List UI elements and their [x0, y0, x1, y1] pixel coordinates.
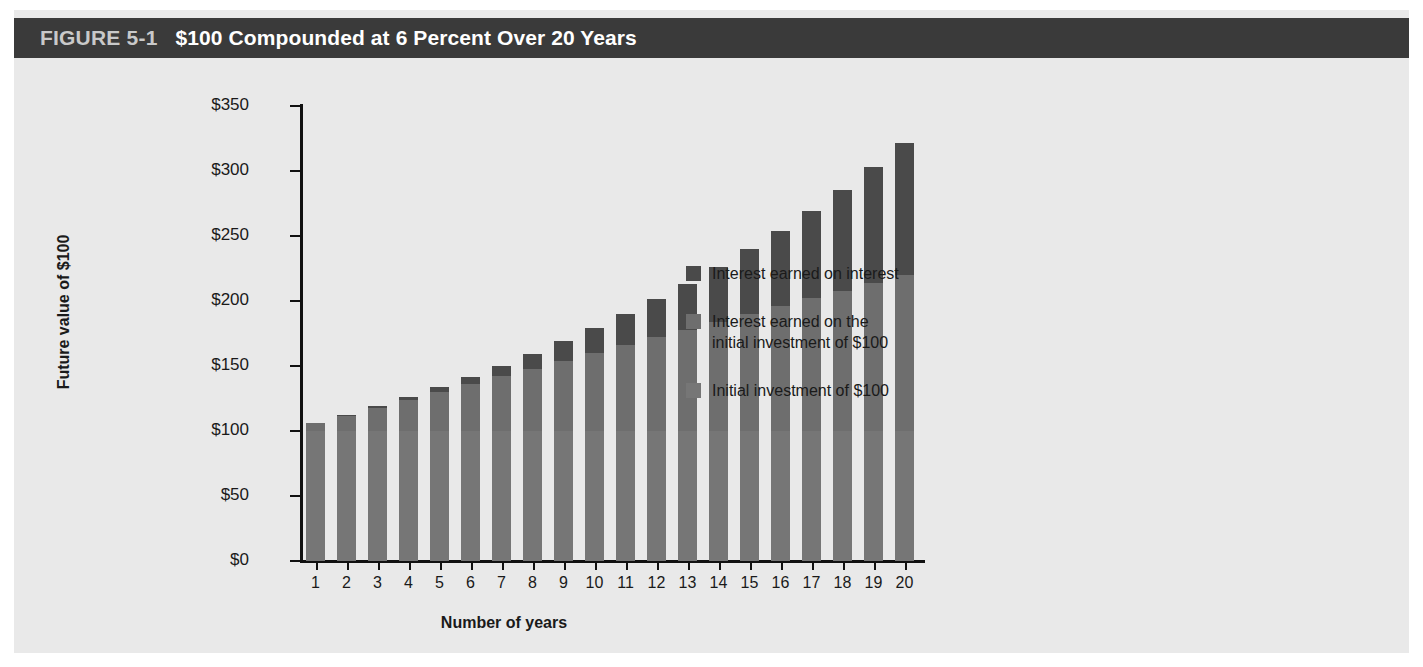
bar-stack [306, 423, 325, 561]
bar-segment [864, 431, 883, 561]
bar-segment [678, 431, 697, 561]
bar-stack [585, 328, 604, 561]
y-axis-tick [290, 300, 302, 302]
bar-segment [399, 431, 418, 561]
bar-segment [616, 314, 635, 345]
bar-segment [647, 431, 666, 561]
x-axis-tick-label: 5 [425, 574, 455, 592]
y-axis-tick-label: $200 [139, 290, 249, 310]
bar-segment [399, 397, 418, 400]
y-axis-tick-label: $0 [139, 550, 249, 570]
legend-label: Initial investment of $100 [712, 380, 889, 402]
bar-segment [616, 431, 635, 561]
x-axis-tick [409, 561, 411, 570]
y-axis-label: Future value of $100 [55, 202, 73, 422]
y-axis-tick [290, 105, 302, 107]
x-axis-tick [657, 561, 659, 570]
figure-title-bar: FIGURE 5-1 $100 Compounded at 6 Percent … [14, 18, 1409, 58]
bar-segment [554, 431, 573, 561]
bar-segment [368, 408, 387, 431]
bar-stack [523, 354, 542, 561]
legend-swatch [686, 314, 701, 329]
x-axis-tick-label: 4 [394, 574, 424, 592]
x-axis-tick-label: 7 [487, 574, 517, 592]
bar-stack [337, 415, 356, 561]
bar-stack [368, 406, 387, 561]
legend-swatch [686, 266, 701, 281]
bar-segment [647, 337, 666, 431]
x-axis-tick [440, 561, 442, 570]
x-axis-tick [843, 561, 845, 570]
legend-item: Interest earned on the initial investmen… [686, 311, 986, 354]
y-axis-tick [290, 235, 302, 237]
y-axis-tick [290, 170, 302, 172]
bar-stack [461, 377, 480, 561]
bar-segment [368, 431, 387, 561]
x-axis-tick [347, 561, 349, 570]
bar-stack [616, 314, 635, 561]
x-axis-tick-label: 14 [704, 574, 734, 592]
x-axis-tick-label: 16 [766, 574, 796, 592]
y-axis-tick-label: $50 [139, 485, 249, 505]
x-axis-tick [378, 561, 380, 570]
y-axis-tick-label: $250 [139, 225, 249, 245]
bar-segment [771, 431, 790, 561]
x-axis-tick [595, 561, 597, 570]
bar-segment [616, 345, 635, 431]
bar-segment [523, 354, 542, 369]
x-axis-tick [626, 561, 628, 570]
x-axis-label: Number of years [194, 614, 814, 632]
bar-stack [554, 341, 573, 561]
bar-segment [337, 415, 356, 431]
x-axis-tick-label: 11 [611, 574, 641, 592]
bar-segment [430, 392, 449, 431]
y-axis-tick-label: $300 [139, 160, 249, 180]
bar-segment [399, 400, 418, 431]
bar-segment [461, 377, 480, 385]
x-axis-tick [781, 561, 783, 570]
bar-stack [647, 299, 666, 561]
x-axis-tick [874, 561, 876, 570]
bar-stack [430, 387, 449, 561]
figure-panel: FIGURE 5-1 $100 Compounded at 6 Percent … [14, 10, 1409, 653]
x-axis-tick-label: 2 [332, 574, 362, 592]
y-axis-tick [290, 430, 302, 432]
bar-segment [647, 299, 666, 337]
x-axis-tick-label: 13 [673, 574, 703, 592]
x-axis-tick [471, 561, 473, 570]
x-axis-tick-label: 12 [642, 574, 672, 592]
bar-stack [492, 366, 511, 561]
legend-label: Interest earned on the initial investmen… [712, 311, 888, 354]
bar-segment [306, 423, 325, 431]
bar-segment [554, 361, 573, 431]
bar-segment [492, 366, 511, 377]
bar-segment [368, 406, 387, 407]
bar-segment [430, 387, 449, 392]
x-axis-tick [688, 561, 690, 570]
bar-segment [802, 431, 821, 561]
legend-label: Interest earned on interest [712, 263, 899, 285]
legend-swatch [686, 383, 701, 398]
bar-segment [523, 431, 542, 561]
x-axis-tick-label: 18 [828, 574, 858, 592]
x-axis-tick-label: 10 [580, 574, 610, 592]
x-axis-tick [719, 561, 721, 570]
y-axis-tick [290, 365, 302, 367]
y-axis-tick [290, 495, 302, 497]
x-axis-tick [316, 561, 318, 570]
x-axis-tick-label: 15 [735, 574, 765, 592]
figure-number: FIGURE 5-1 [40, 26, 158, 50]
bar-segment [461, 384, 480, 431]
x-axis-tick [564, 561, 566, 570]
bar-segment [585, 328, 604, 353]
bar-segment [740, 431, 759, 561]
y-axis-tick-label: $150 [139, 355, 249, 375]
chart-legend: Interest earned on interestInterest earn… [686, 263, 986, 427]
bar-segment [895, 431, 914, 561]
x-axis-tick [905, 561, 907, 570]
x-axis-tick-label: 1 [301, 574, 331, 592]
bar-segment [461, 431, 480, 561]
x-axis-tick-label: 9 [549, 574, 579, 592]
x-axis-tick [750, 561, 752, 570]
bar-segment [585, 353, 604, 431]
